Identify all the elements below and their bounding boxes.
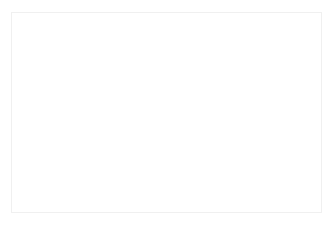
figure-title: Dental implant cross-section — [0, 0, 1, 1]
figure-root: Schematic sagittal cross-section of an e… — [0, 0, 333, 229]
abutment-collar — [147, 133, 180, 152]
implant-diagram-svg — [11, 12, 322, 213]
implant-group — [147, 133, 180, 213]
crown-group — [130, 30, 201, 135]
figure-caption: Schematic sagittal cross-section of an e… — [0, 0, 1, 1]
figure-canvas — [11, 12, 322, 213]
